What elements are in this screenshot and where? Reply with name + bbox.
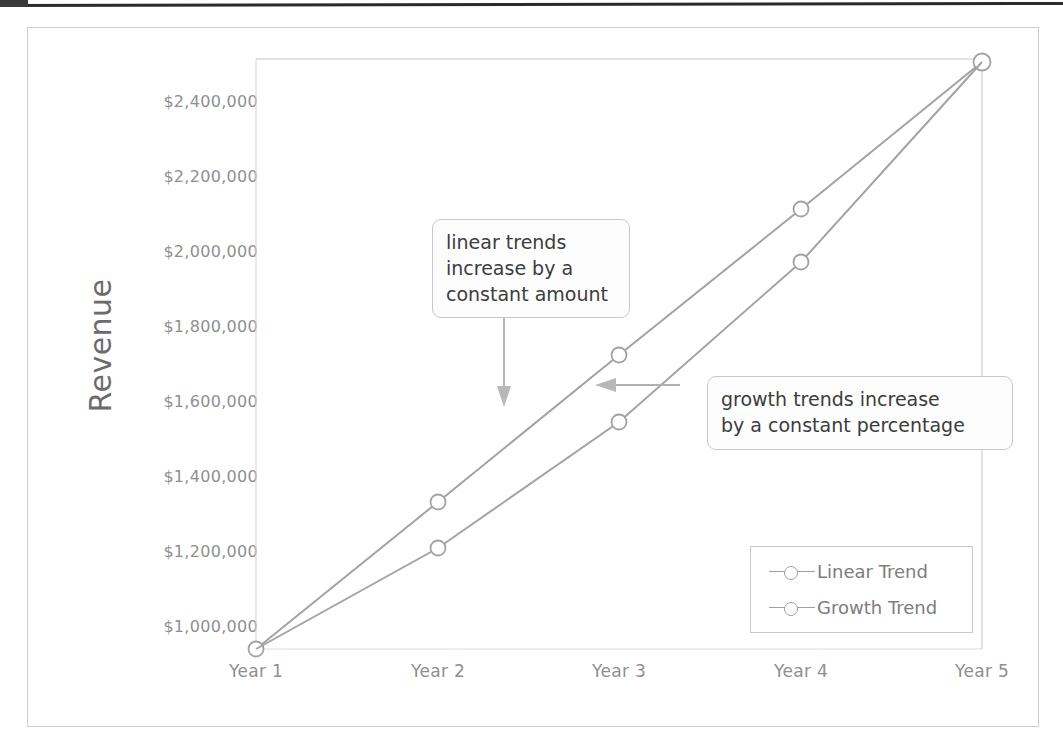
legend-marker-icon: [769, 565, 815, 579]
callout-growth-line2: by a constant percentage: [721, 412, 999, 438]
linear-point-year2: [431, 495, 446, 510]
legend-item-growth-trend[interactable]: Growth Trend: [769, 597, 937, 618]
legend-label: Linear Trend: [817, 561, 928, 582]
page-top-rule: [0, 2, 1063, 7]
legend-item-linear-trend[interactable]: Linear Trend: [769, 561, 928, 582]
legend-marker-icon: [769, 601, 815, 615]
callout-linear-trends: linear trends increase by a constant amo…: [432, 219, 630, 318]
linear-point-year3: [612, 348, 627, 363]
x-tick-label: Year 2: [368, 661, 508, 681]
callout-growth-line1: growth trends increase: [721, 386, 999, 412]
callout-linear-line3: constant amount: [446, 281, 616, 307]
x-tick-label: Year 1: [186, 661, 326, 681]
x-tick-label: Year 4: [731, 661, 871, 681]
growth-point-year4: [794, 255, 809, 270]
legend-label: Growth Trend: [817, 597, 937, 618]
linear-point-year4: [794, 202, 809, 217]
page-corner-mark: [0, 0, 28, 7]
chart-container: Revenue $2,400,000 $2,200,000 $2,000,000…: [27, 27, 1039, 727]
chart-legend[interactable]: Linear Trend Growth Trend: [750, 546, 973, 633]
x-tick-label: Year 5: [912, 661, 1052, 681]
callout-growth-trends: growth trends increase by a constant per…: [707, 376, 1013, 450]
callout-linear-line2: increase by a: [446, 255, 616, 281]
callout-linear-line1: linear trends: [446, 229, 616, 255]
growth-point-year2: [431, 541, 446, 556]
growth-point-year3: [612, 415, 627, 430]
x-tick-label: Year 3: [549, 661, 689, 681]
